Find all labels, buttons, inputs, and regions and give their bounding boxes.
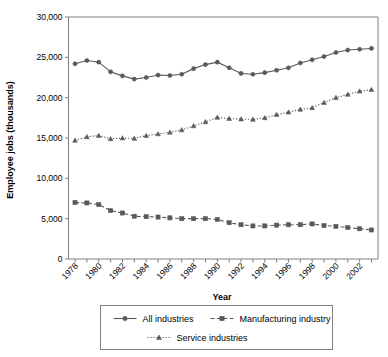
data-point-marker — [275, 223, 279, 227]
data-point-marker — [346, 225, 350, 229]
data-point-marker — [168, 73, 172, 77]
y-tick-label: 0 — [58, 254, 63, 264]
legend-label: Service industries — [177, 333, 249, 343]
data-point-marker — [215, 217, 219, 221]
data-point-marker — [108, 209, 112, 213]
y-tick-label: 5,000 — [41, 214, 63, 224]
data-point-marker — [144, 75, 148, 79]
data-point-marker — [132, 77, 136, 81]
x-axis-title: Year — [212, 292, 232, 302]
data-point-marker — [298, 61, 302, 65]
data-point-marker — [358, 47, 362, 51]
data-point-marker — [369, 46, 373, 50]
data-point-marker — [203, 62, 207, 66]
legend-label: All industries — [143, 314, 195, 324]
data-point-marker — [120, 211, 124, 215]
data-point-marker — [73, 62, 77, 66]
data-point-marker — [97, 60, 101, 64]
y-tick-label: 30,000 — [37, 12, 63, 22]
data-point-marker — [168, 216, 172, 220]
data-point-marker — [108, 70, 112, 74]
data-point-marker — [156, 215, 160, 219]
data-point-marker — [334, 224, 338, 228]
data-point-marker — [85, 58, 89, 62]
data-point-marker — [322, 54, 326, 58]
data-point-marker — [322, 223, 326, 227]
data-point-marker — [227, 66, 231, 70]
y-tick-label: 10,000 — [37, 173, 63, 183]
legend-label: Manufacturing industry — [240, 314, 332, 324]
employee-jobs-line-chart: 05,00010,00015,00020,00025,00030,000 197… — [0, 0, 388, 357]
data-point-marker — [215, 60, 219, 64]
y-tick-label: 25,000 — [37, 52, 63, 62]
data-point-marker — [298, 223, 302, 227]
data-point-marker — [310, 222, 314, 226]
data-point-marker — [156, 73, 160, 77]
data-point-marker — [220, 316, 224, 320]
data-point-marker — [180, 217, 184, 221]
data-point-marker — [97, 202, 101, 206]
data-point-marker — [192, 67, 196, 71]
data-point-marker — [120, 74, 124, 78]
data-point-marker — [275, 68, 279, 72]
data-point-marker — [85, 201, 89, 205]
data-point-marker — [346, 48, 350, 52]
data-point-marker — [73, 200, 77, 204]
data-point-marker — [227, 221, 231, 225]
data-point-marker — [192, 217, 196, 221]
data-point-marker — [251, 224, 255, 228]
y-tick-label: 15,000 — [37, 133, 63, 143]
data-point-marker — [286, 223, 290, 227]
data-point-marker — [369, 228, 373, 232]
data-point-marker — [144, 215, 148, 219]
data-point-marker — [203, 217, 207, 221]
data-point-marker — [358, 227, 362, 231]
data-point-marker — [251, 72, 255, 76]
data-point-marker — [239, 71, 243, 75]
data-point-marker — [263, 71, 267, 75]
data-point-marker — [239, 223, 243, 227]
data-point-marker — [334, 50, 338, 54]
data-point-marker — [180, 72, 184, 76]
y-tick-label: 20,000 — [37, 93, 63, 103]
chart-figure: 05,00010,00015,00020,00025,00030,000 197… — [0, 0, 388, 357]
legend-border — [101, 306, 333, 350]
data-point-marker — [286, 66, 290, 70]
chart-legend: All industriesManufacturing industryServ… — [101, 306, 333, 350]
data-point-marker — [123, 316, 127, 320]
data-point-marker — [310, 58, 314, 62]
data-point-marker — [263, 224, 267, 228]
data-point-marker — [132, 214, 136, 218]
y-axis-title: Employee jobs (thousands) — [5, 81, 15, 199]
